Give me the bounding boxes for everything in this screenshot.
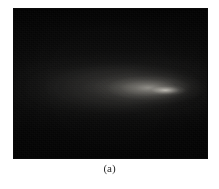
figure-caption: (a) — [0, 161, 219, 175]
image-plume-tip-layer — [14, 9, 207, 158]
image-tail-layer — [14, 9, 207, 158]
image-vignette-layer — [14, 9, 207, 158]
image-base-layer — [14, 9, 207, 158]
image-plume-core-layer — [14, 9, 207, 158]
image-grain-layer — [14, 9, 207, 158]
image-broad-glow-layer — [14, 9, 207, 158]
plume-photograph-panel — [14, 9, 207, 158]
figure-container: (a) — [0, 0, 219, 189]
